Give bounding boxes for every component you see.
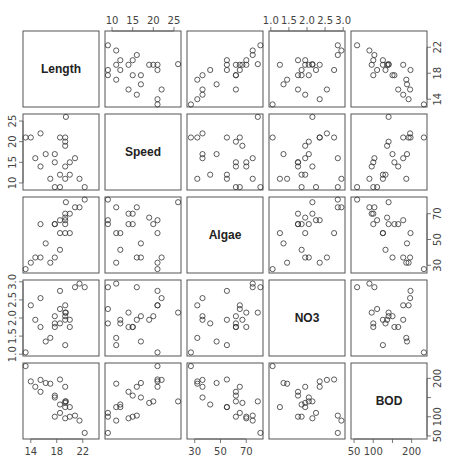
diagonal-label-panel-length: Length [23,31,99,107]
panel-frame [105,197,181,273]
scatter-panel-speed-vs-length [105,31,181,107]
tick-label: 14 [432,93,443,106]
tick-label: 2.0 [7,310,18,326]
tick-label: 50 [348,446,361,457]
tick-label: 100 [432,407,443,426]
x-axis-bod: 50100200 [348,439,421,457]
variable-label: Speed [125,145,161,159]
scatter-panel-bod-vs-speed [351,114,427,190]
scatter-panel-algae-vs-length [187,31,263,107]
panel-frame [105,31,181,107]
tick-label: 18 [432,67,443,80]
tick-label: 20 [147,15,160,26]
tick-label: 70 [432,207,443,220]
panel-frame [351,31,427,107]
panel-frame [23,197,99,273]
tick-label: 1.0 [7,346,18,362]
scatter-panel-speed-vs-algae [105,197,181,273]
y-axis-algae: 305070 [427,207,443,271]
tick-label: 50 [432,430,443,443]
diagonal-label-panel-no3: NO3 [269,280,345,356]
tick-label: 2.0 [299,15,315,26]
tick-label: 1.5 [7,328,18,344]
tick-label: 200 [402,446,421,457]
y-axis-length: 141822 [427,41,443,106]
y-axis-bod: 50100200 [427,369,443,442]
tick-label: 14 [24,446,37,457]
tick-label: 30 [432,259,443,272]
panel-frame [105,363,181,439]
scatter-panel-bod-vs-length [351,31,427,107]
x-axis-algae: 305070 [188,439,252,457]
tick-label: 10 [7,177,18,190]
variable-label: Length [41,62,81,76]
panel-frame [187,363,263,439]
panel-frame [23,280,99,356]
scatter-panel-no3-vs-speed [269,114,345,190]
tick-label: 50 [214,446,227,457]
tick-label: 10 [106,15,119,26]
y-axis-speed: 10152025 [7,115,23,190]
scatter-panel-length-vs-no3 [23,280,99,356]
x-axis-no3: 1.01.52.02.53.0 [263,15,351,31]
panel-frame [187,114,263,190]
scatter-panel-algae-vs-speed [187,114,263,190]
panel-frame [351,197,427,273]
variable-label: Algae [209,228,242,242]
tick-label: 25 [7,115,18,128]
tick-label: 200 [432,369,443,388]
scatter-panel-bod-vs-no3 [351,280,427,356]
diagonal-label-panel-bod: BOD [351,363,427,439]
tick-label: 1.0 [263,15,279,26]
scatter-panel-algae-vs-no3 [187,280,263,356]
scatter-panel-length-vs-speed [23,114,99,190]
panel-frame [269,31,345,107]
variable-label: BOD [376,394,403,408]
tick-label: 2.5 [317,15,333,26]
tick-label: 70 [240,446,253,457]
diagonal-label-panel-algae: Algae [187,197,263,273]
tick-label: 30 [188,446,201,457]
panel-frame [187,31,263,107]
panel-frame [23,363,99,439]
scatter-panel-no3-vs-length [269,31,345,107]
x-axis-speed: 10152025 [106,15,181,31]
scatterplot-matrix: LengthSpeedAlgaeNO3BOD141822141822101520… [0,0,450,472]
scatter-panel-length-vs-bod [23,363,99,439]
tick-label: 3.0 [335,15,351,26]
tick-label: 20 [7,135,18,148]
panel-frame [351,114,427,190]
scatter-panel-speed-vs-bod [105,363,181,439]
variable-label: NO3 [295,311,320,325]
tick-label: 3.0 [7,274,18,290]
diagonal-label-panel-speed: Speed [105,114,181,190]
tick-label: 22 [432,41,443,54]
scatter-panel-no3-vs-algae [269,197,345,273]
scatter-panel-algae-vs-bod [187,363,263,439]
panel-frame [23,114,99,190]
tick-label: 50 [432,233,443,246]
scatter-panel-bod-vs-algae [351,197,427,273]
x-axis-length: 141822 [24,439,89,457]
tick-label: 15 [7,156,18,169]
scatter-panel-no3-vs-bod [269,363,345,439]
tick-label: 15 [126,15,139,26]
tick-label: 1.5 [281,15,297,26]
tick-label: 25 [168,15,181,26]
y-axis-no3: 1.01.52.02.53.0 [7,274,23,362]
tick-label: 2.5 [7,292,18,308]
tick-label: 100 [364,446,383,457]
tick-label: 18 [50,446,63,457]
scatter-panel-length-vs-algae [23,197,99,273]
scatter-panel-speed-vs-no3 [105,280,181,356]
tick-label: 22 [76,446,89,457]
